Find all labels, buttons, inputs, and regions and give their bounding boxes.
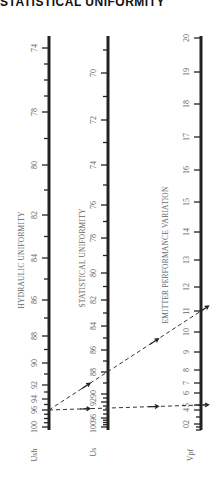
tick-label-vpf: 13 xyxy=(182,256,191,264)
tick-label-us: 78 xyxy=(89,234,98,242)
tick-label-ush: 92 xyxy=(30,381,39,389)
tick-label-vpf: 11 xyxy=(182,307,191,315)
tick-label-vpf: 10 xyxy=(182,328,191,336)
tick-label-ush: 84 xyxy=(30,254,39,262)
tick-label-vpf: 19 xyxy=(182,68,191,76)
tick-label-us: 76 xyxy=(89,201,98,209)
tick-label-ush: 80 xyxy=(30,161,39,169)
tick-label-vpf: 16 xyxy=(182,166,191,174)
arrow-diagonal-example-2 xyxy=(150,339,158,344)
axis-title-ush: HYDRAULIC UNIFORMITY xyxy=(17,211,26,309)
tick-label-ush: 94 xyxy=(30,395,39,403)
arrow-horizontal-example-2 xyxy=(148,405,158,409)
tick-label-ush: 100 xyxy=(30,421,39,433)
axis-symbol-us: Us xyxy=(89,448,98,457)
tick-label-vpf: 14 xyxy=(182,228,191,236)
arrow-diagonal-example-1 xyxy=(82,383,90,388)
tick-label-vpf: 20 xyxy=(182,34,191,42)
tick-label-us: 86 xyxy=(89,346,98,354)
axis-us: STATISTICAL UNIFORMITY Us 10096929088868… xyxy=(78,36,108,456)
axis-vpf: EMITTER PERFORMANCE VARIATION Vpf 024567… xyxy=(161,34,201,461)
axis-ush: HYDRAULIC UNIFORMITY Ush 100969492908886… xyxy=(17,36,49,461)
tick-label-us: 84 xyxy=(89,322,98,330)
tick-label-ush: 86 xyxy=(30,296,39,304)
tick-label-ush: 88 xyxy=(30,332,39,340)
tick-label-us: 88 xyxy=(89,368,98,376)
tick-label-vpf: 17 xyxy=(182,133,191,141)
tick-label-vpf: 4 xyxy=(182,408,191,412)
axis-title-us: STATISTICAL UNIFORMITY xyxy=(78,208,87,308)
tick-label-vpf: 6 xyxy=(182,391,191,395)
axis-symbol-ush: Ush xyxy=(30,449,39,462)
axis-title-vpf: EMITTER PERFORMANCE VARIATION xyxy=(161,186,170,324)
tick-label-vpf: 02 xyxy=(182,420,191,428)
tick-label-vpf: 9 xyxy=(182,350,191,354)
tick-label-vpf: 12 xyxy=(182,283,191,291)
tick-label-vpf: 18 xyxy=(182,100,191,108)
tick-label-us: 80 xyxy=(89,269,98,277)
tick-label-vpf: 8 xyxy=(182,368,191,372)
tick-label-ush: 78 xyxy=(30,108,39,116)
tick-label-us: 96 xyxy=(89,414,98,422)
tick-label-us: 74 xyxy=(89,161,98,169)
axis-symbol-vpf: Vpf xyxy=(186,448,195,461)
nomogram-chart: HYDRAULIC UNIFORMITY Ush 100969492908886… xyxy=(0,0,222,484)
tick-label-ush: 74 xyxy=(30,44,39,52)
tick-label-vpf: 7 xyxy=(182,381,191,385)
tick-label-ush: 90 xyxy=(30,359,39,367)
tick-label-vpf: 15 xyxy=(182,198,191,206)
arrow-horizontal-example-1 xyxy=(80,407,90,411)
tick-label-us: 90 xyxy=(89,390,98,398)
tick-label-ush: 82 xyxy=(30,211,39,219)
tick-label-us: 82 xyxy=(89,296,98,304)
tick-label-us: 92 xyxy=(89,398,98,406)
tick-label-us: 72 xyxy=(89,116,98,124)
tick-label-us: 70 xyxy=(89,69,98,77)
tick-label-ush: 96 xyxy=(30,406,39,414)
